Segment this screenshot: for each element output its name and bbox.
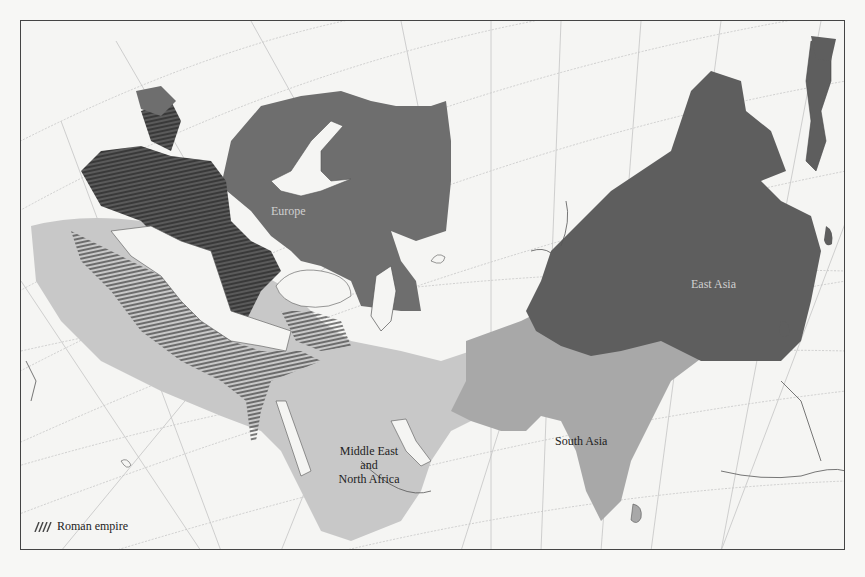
- sri-lanka: [631, 504, 641, 523]
- region-label-middle-east-north-africa: Middle East and North Africa: [314, 444, 424, 486]
- small-island: [121, 460, 131, 468]
- mena-label-line-2: and: [314, 458, 424, 472]
- mena-label-line-1: Middle East: [314, 444, 424, 458]
- hatch-swatch-icon: [33, 522, 53, 532]
- taiwan: [824, 226, 832, 245]
- mena-label-line-3: North Africa: [314, 472, 424, 486]
- region-label-east-asia: East Asia: [691, 277, 736, 291]
- region-label-europe: Europe: [271, 204, 306, 218]
- map-frame: Europe East Asia South Asia Middle East …: [20, 20, 845, 550]
- legend-label-roman-empire: Roman empire: [57, 519, 128, 534]
- legend: Roman empire: [33, 519, 128, 534]
- lake-balkhash: [431, 255, 445, 264]
- region-label-south-asia: South Asia: [555, 434, 607, 448]
- region-east-asia: [526, 71, 821, 361]
